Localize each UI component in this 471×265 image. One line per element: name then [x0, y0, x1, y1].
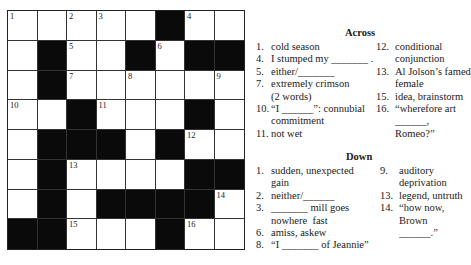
black-cell: [185, 190, 215, 220]
clue-text: neither/______: [271, 190, 380, 202]
grid-cell[interactable]: [67, 190, 97, 220]
grid-cell[interactable]: [8, 160, 38, 190]
clue-text: extremely crimson (2 words): [271, 78, 374, 103]
clue-item: 6.amiss, askew: [256, 227, 380, 239]
cell-number: 4: [187, 11, 191, 21]
clue-text: Al Jolson’s famed female: [395, 66, 471, 91]
grid-cell[interactable]: 1: [8, 11, 38, 41]
clue-number: 14.: [380, 202, 399, 239]
grid-cell[interactable]: 12: [185, 130, 215, 160]
grid-cell[interactable]: [126, 160, 156, 190]
grid-cell[interactable]: [38, 11, 68, 41]
grid-cell[interactable]: [97, 71, 127, 101]
black-cell: [38, 130, 68, 160]
cell-number: 2: [69, 11, 73, 21]
black-cell: [67, 100, 97, 130]
black-cell: [156, 219, 186, 249]
grid-cell[interactable]: [97, 41, 127, 71]
cell-number: 5: [69, 41, 73, 51]
clue-text: “I ______”: connubial commitment: [271, 103, 374, 128]
grid-cell[interactable]: [38, 100, 68, 130]
grid-cell[interactable]: [8, 71, 38, 101]
cell-number: 16: [187, 219, 196, 229]
black-cell: [38, 219, 68, 249]
grid-cell[interactable]: 7: [67, 71, 97, 101]
grid-cell[interactable]: [156, 100, 186, 130]
black-cell: [38, 160, 68, 190]
cell-number: 6: [158, 41, 162, 51]
clue-text: auditory deprivation: [399, 165, 471, 190]
grid-cell[interactable]: [185, 71, 215, 101]
black-cell: [8, 219, 38, 249]
grid-cell[interactable]: 14: [215, 190, 245, 220]
clue-number: 1.: [256, 41, 271, 53]
clue-text: “how now, Brown ______.”: [399, 202, 471, 239]
clue-number: 1.: [256, 165, 271, 190]
clue-number: 3.: [256, 202, 271, 227]
clue-item: 7.extremely crimson (2 words): [256, 78, 374, 103]
clue-number: 6.: [256, 227, 271, 239]
black-cell: [97, 130, 127, 160]
grid-cell[interactable]: 6: [156, 41, 186, 71]
black-cell: [156, 190, 186, 220]
clue-number: 16.: [376, 103, 395, 140]
clue-item: 9.auditory deprivation: [380, 165, 471, 190]
grid-cell[interactable]: 10: [8, 100, 38, 130]
cell-number: 7: [69, 71, 73, 81]
grid-cell[interactable]: 8: [126, 71, 156, 101]
grid-cell[interactable]: 13: [67, 160, 97, 190]
cell-number: 11: [99, 100, 107, 110]
grid-cell[interactable]: 16: [185, 219, 215, 249]
clue-number: 11.: [256, 128, 271, 140]
black-cell: [38, 71, 68, 101]
black-cell: [215, 41, 245, 71]
grid-cell[interactable]: 9: [215, 71, 245, 101]
grid-cell[interactable]: [126, 219, 156, 249]
grid-cell[interactable]: [126, 130, 156, 160]
clue-item: 13.legend, untruth: [380, 190, 471, 202]
black-cell: [185, 160, 215, 190]
cell-number: 13: [69, 160, 78, 170]
grid-cell[interactable]: [97, 160, 127, 190]
black-cell: [215, 160, 245, 190]
clue-item: 8.“I _______ of Jeannie”: [256, 239, 380, 251]
clue-number: 2.: [256, 190, 271, 202]
clue-text: “wherefore art ______, Romeo?”: [395, 103, 471, 140]
clue-item: 3._______ mill goes nowhere fast: [256, 202, 380, 227]
crossword-grid: 12345678910111213141516: [7, 10, 245, 250]
grid-cell[interactable]: [215, 11, 245, 41]
grid-cell[interactable]: [8, 41, 38, 71]
grid-cell[interactable]: 4: [185, 11, 215, 41]
cell-number: 14: [217, 190, 226, 200]
clue-number: 15.: [376, 91, 395, 103]
clue-text: not wet: [271, 128, 374, 140]
grid-cell[interactable]: [8, 130, 38, 160]
grid-cell[interactable]: 15: [67, 219, 97, 249]
clue-item: 13.Al Jolson’s famed female: [376, 66, 471, 91]
clue-text: legend, untruth: [399, 190, 471, 202]
grid-cell[interactable]: [215, 219, 245, 249]
grid-cell[interactable]: 11: [97, 100, 127, 130]
grid-cell[interactable]: [126, 11, 156, 41]
black-cell: [185, 41, 215, 71]
grid-cell[interactable]: [126, 100, 156, 130]
grid-cell[interactable]: [215, 130, 245, 160]
grid-cell[interactable]: [8, 190, 38, 220]
black-cell: [97, 190, 127, 220]
clue-item: 16.“wherefore art ______, Romeo?”: [376, 103, 471, 140]
clue-number: 9.: [380, 165, 399, 190]
grid-cell[interactable]: 5: [67, 41, 97, 71]
down-clues-left: 1.sudden, unexpected gain2.neither/_____…: [256, 165, 380, 252]
grid-cell[interactable]: 3: [97, 11, 127, 41]
clue-text: conditional conjunction: [395, 41, 471, 66]
grid-cell[interactable]: 2: [67, 11, 97, 41]
clue-text: I stumped my _______ .: [271, 53, 374, 65]
clue-number: 5.: [256, 66, 271, 78]
clue-number: 12.: [376, 41, 395, 66]
grid-cell[interactable]: [97, 219, 127, 249]
clue-text: cold season: [271, 41, 374, 53]
grid-cell[interactable]: [156, 160, 186, 190]
cell-number: 1: [10, 11, 14, 21]
grid-cell[interactable]: [156, 71, 186, 101]
grid-cell[interactable]: [215, 100, 245, 130]
